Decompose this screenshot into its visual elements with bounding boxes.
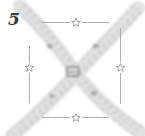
- star-icon: [72, 19, 80, 27]
- star-icon: [116, 64, 124, 72]
- diagram-canvas: 5: [0, 0, 145, 136]
- star-icon: [25, 64, 33, 72]
- step-number: 5: [8, 10, 20, 28]
- star-icon: [72, 114, 80, 122]
- yarn-cross-illustration: [0, 0, 145, 136]
